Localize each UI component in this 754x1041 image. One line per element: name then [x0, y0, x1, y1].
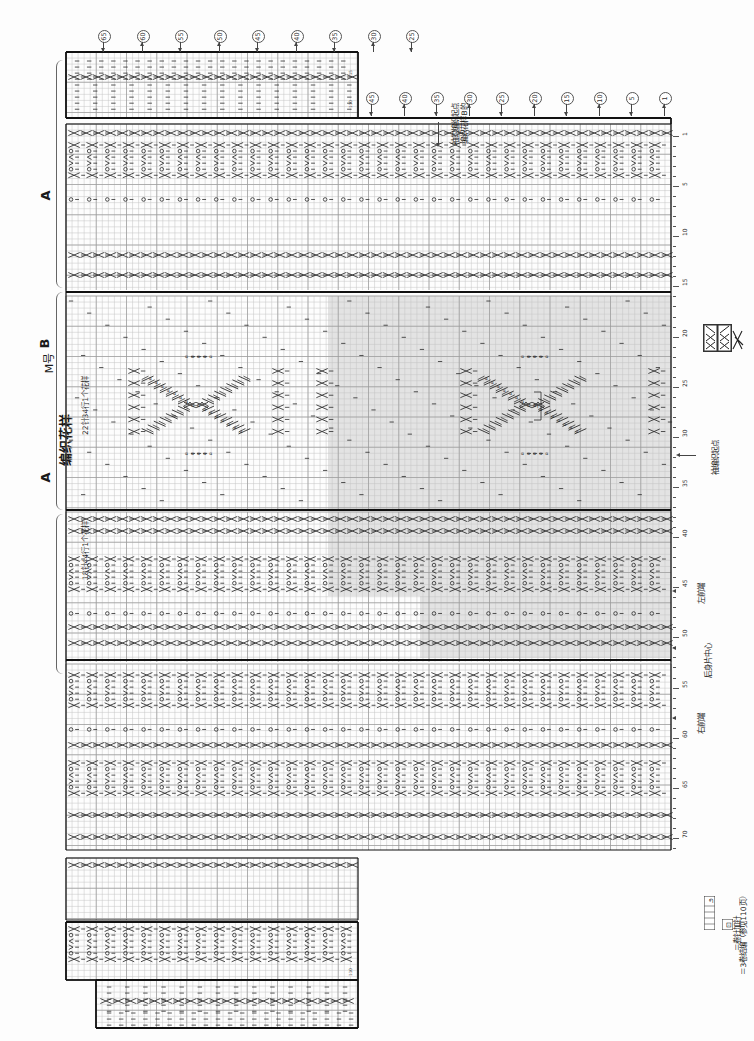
svg-text:α: α: [167, 388, 170, 393]
svg-text:α: α: [515, 395, 518, 400]
row-scale-tick: [673, 617, 676, 618]
stitch-marker-arrowhead: [140, 42, 144, 46]
right-front-edge-label: 右前端: [695, 713, 706, 734]
row-scale-label: 10: [681, 229, 688, 237]
svg-text:α: α: [503, 388, 506, 393]
stitch-count-marker: 55: [175, 30, 188, 43]
row-scale-tick: [673, 146, 676, 147]
sleeve-knit-start-leader: [680, 455, 696, 456]
stitch-count-marker: 45: [252, 30, 265, 43]
row-scale-tick: [673, 246, 676, 247]
row-scale-tick: [673, 317, 676, 318]
row-scale-label: 15: [681, 279, 688, 287]
row-scale-tick: [673, 517, 676, 518]
row-scale-tick: [673, 367, 676, 368]
sleeve-knit-start-arrowhead: [676, 453, 680, 457]
stitch-count-marker: 35: [431, 92, 444, 105]
row-scale-tick: [673, 447, 676, 448]
row-scale-tick: [673, 397, 676, 398]
stitch-count-marker: 45: [366, 92, 379, 105]
left-front-arrow: [672, 589, 676, 593]
row-scale-tick: [673, 507, 676, 508]
row-scale-tick: [673, 607, 676, 608]
svg-text:α: α: [149, 376, 152, 381]
pattern-chart-canvas: 110115αααααααααααααααααααααααααααααααααα…: [0, 0, 754, 1041]
row-scale-tick: [673, 627, 676, 628]
stitch-marker-arrowhead: [564, 112, 568, 116]
stitch-marker-arrowhead: [255, 48, 259, 52]
left-front-edge-label: 左前端: [695, 583, 706, 604]
row-scale-label: 5: [681, 182, 688, 186]
row-scale-tick: [673, 708, 676, 709]
sleeve-start-arrowhead: [436, 143, 440, 147]
row-scale-tick: [673, 848, 676, 849]
row-scale-tick: [673, 437, 679, 438]
row-scale-label: 40: [681, 529, 688, 537]
row-scale-tick: [673, 637, 679, 638]
svg-text:α: α: [545, 451, 548, 456]
svg-text:α: α: [557, 418, 560, 423]
svg-text:α: α: [569, 425, 572, 430]
svg-text:α: α: [179, 395, 182, 400]
stitch-count-marker: 65: [98, 30, 111, 43]
svg-text:౨: ౨: [707, 898, 714, 903]
row-scale-tick: [673, 357, 676, 358]
svg-text:α: α: [563, 422, 566, 427]
row-scale-tick: [673, 577, 676, 578]
svg-text:α: α: [551, 414, 554, 419]
row-scale-label: 50: [681, 630, 688, 638]
row-scale-label: 35: [681, 479, 688, 487]
row-scale-tick: [673, 327, 676, 328]
stitch-marker-arrowhead: [409, 48, 413, 52]
row-scale-tick: [673, 758, 676, 759]
row-scale-tick: [673, 427, 676, 428]
svg-text:115: 115: [348, 70, 353, 78]
row-scale-tick: [673, 567, 676, 568]
legend-symbol-wrap-3-bind: ౨: [704, 896, 715, 930]
row-scale-tick: [673, 678, 676, 679]
row-scale-tick: [673, 778, 676, 779]
stitch-marker-arrowhead: [532, 104, 536, 108]
stitch-count-marker: 25: [496, 92, 509, 105]
stitch-count-marker: 35: [329, 30, 342, 43]
row-scale-label: 30: [681, 429, 688, 437]
row-scale-tick: [673, 266, 676, 267]
stitch-marker-arrowhead: [662, 104, 666, 108]
stitch-marker-arrowhead: [629, 112, 633, 116]
svg-text:α: α: [185, 451, 188, 456]
row-scale-tick: [673, 477, 676, 478]
row-scale-tick: [673, 688, 679, 689]
row-scale-tick: [673, 657, 676, 658]
sleeve-knit-start-label: 袖编织起点: [709, 440, 720, 475]
svg-text:α: α: [521, 354, 524, 359]
legend-symbol-cross-2-under-1: [731, 330, 744, 350]
row-scale-tick: [673, 487, 679, 488]
row-scale-tick: [673, 838, 679, 839]
svg-text:α: α: [161, 384, 164, 389]
stitch-marker-arrowhead: [369, 112, 373, 116]
row-scale-tick: [673, 156, 676, 157]
svg-text:α: α: [209, 354, 212, 359]
svg-text:α: α: [191, 403, 194, 408]
row-scale-tick: [673, 818, 676, 819]
row-scale-tick: [673, 808, 676, 809]
row-scale-tick: [673, 457, 676, 458]
back-center-arrow: [672, 646, 676, 650]
stitch-marker-arrowhead: [402, 104, 406, 108]
svg-text:α: α: [521, 451, 524, 456]
svg-text:α: α: [185, 354, 188, 359]
row-scale-tick: [673, 547, 676, 548]
stitch-marker-arrowhead: [371, 42, 375, 46]
row-scale-tick: [673, 788, 679, 789]
legend-symbol-cable-left-over-3: [703, 324, 718, 352]
row-scale-label: 60: [681, 730, 688, 738]
stitch-marker-arrowhead: [597, 104, 601, 108]
svg-text:α: α: [233, 425, 236, 430]
stitch-marker-arrowhead: [499, 112, 503, 116]
row-scale-label: 20: [681, 329, 688, 337]
row-scale-tick: [673, 347, 676, 348]
svg-text:α: α: [545, 410, 548, 415]
row-scale-tick: [673, 467, 676, 468]
row-scale-tick: [673, 286, 679, 287]
row-scale-tick: [673, 196, 676, 197]
